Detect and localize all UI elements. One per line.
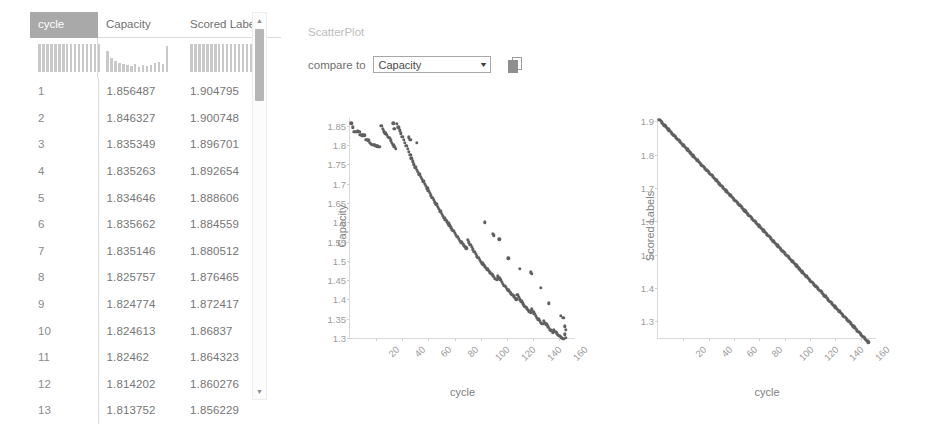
data-point	[378, 145, 381, 148]
x-tick-label: 160	[872, 344, 891, 363]
x-tick-label: 80	[769, 344, 784, 359]
data-point	[394, 147, 397, 150]
data-point	[497, 237, 500, 240]
data-point	[530, 272, 533, 275]
data-point	[518, 267, 521, 270]
panel-title: ScatterPlot	[308, 26, 364, 38]
histogram-cell-cycle	[30, 38, 98, 79]
y-tick-mark	[347, 164, 350, 165]
x-axis-line	[349, 338, 575, 339]
y-tick-mark	[347, 184, 350, 185]
table-row[interactable]: 101.8246131.86837	[30, 317, 281, 344]
y-tick-label: 1.3	[333, 333, 346, 344]
table-row[interactable]: 41.8352631.892654	[30, 158, 281, 185]
cell-cycle: 7	[30, 238, 98, 265]
data-point	[363, 134, 366, 137]
y-tick-label: 1.6	[333, 217, 346, 228]
y-tick-mark	[347, 203, 350, 204]
cell-capacity: 1.813752	[98, 397, 182, 424]
x-tick-label: 60	[744, 344, 759, 359]
x-tick-mark	[835, 338, 836, 341]
data-point	[408, 138, 411, 141]
cell-capacity: 1.835146	[98, 238, 182, 265]
x-tick-mark	[559, 338, 560, 341]
scrollbar-thumb[interactable]	[255, 29, 264, 101]
x-tick-mark	[507, 338, 508, 341]
cell-capacity: 1.825757	[98, 264, 182, 291]
plot-area	[350, 118, 575, 338]
data-point	[507, 257, 510, 260]
y-tick-mark	[655, 221, 658, 222]
histogram-cell-capacity	[98, 38, 182, 79]
cell-cycle: 8	[30, 264, 98, 291]
x-tick-label: 160	[571, 344, 590, 363]
column-header-capacity[interactable]: Capacity	[98, 12, 182, 38]
cell-capacity: 1.856487	[98, 78, 182, 105]
table-row[interactable]: 31.8353491.896701	[30, 131, 281, 158]
data-point	[867, 341, 870, 344]
column-header-cycle[interactable]: cycle	[30, 12, 98, 38]
y-tick-mark	[655, 255, 658, 256]
cell-cycle: 6	[30, 211, 98, 238]
y-tick-label: 1.75	[328, 159, 347, 170]
x-tick-label: 40	[719, 344, 734, 359]
compare-to-label: compare to	[308, 59, 366, 71]
table-row[interactable]: 121.8142021.860276	[30, 371, 281, 398]
data-point	[562, 316, 565, 319]
x-tick-label: 120	[519, 344, 538, 363]
chart-scored-labels-vs-cycle: Scored Labels cycle 1.31.41.51.61.71.81.…	[658, 118, 876, 338]
compare-to-dropdown[interactable]: Capacity ▼	[373, 56, 491, 73]
x-axis-line	[657, 338, 876, 339]
cell-cycle: 3	[30, 131, 98, 158]
data-table-pane: cycle Capacity Scored Labels	[30, 12, 245, 400]
x-tick-label: 80	[465, 344, 480, 359]
y-tick-mark	[347, 261, 350, 262]
table-row[interactable]: 111.824621.864323	[30, 344, 281, 371]
y-tick-mark	[347, 319, 350, 320]
x-tick-mark	[785, 338, 786, 341]
cell-capacity: 1.835662	[98, 211, 182, 238]
histogram-capacity	[106, 42, 168, 72]
data-point	[563, 332, 566, 335]
chevron-down-icon: ▼	[479, 61, 488, 68]
table-row[interactable]: 61.8356621.884559	[30, 211, 281, 238]
histogram-cycle	[38, 42, 100, 72]
table-row[interactable]: 81.8257571.876465	[30, 264, 281, 291]
scroll-up-icon[interactable]: ▲	[253, 14, 266, 27]
x-tick-mark	[376, 338, 377, 341]
y-tick-label: 1.65	[328, 197, 347, 208]
x-tick-label: 100	[796, 344, 815, 363]
table-row[interactable]: 21.8463271.900748	[30, 105, 281, 132]
table-header-row: cycle Capacity Scored Labels	[30, 12, 281, 38]
cell-capacity: 1.846327	[98, 105, 182, 132]
copy-icon[interactable]	[507, 57, 523, 73]
cell-cycle: 10	[30, 317, 98, 344]
y-tick-label: 1.9	[641, 116, 654, 127]
x-tick-mark	[861, 338, 862, 341]
table-row[interactable]: 71.8351461.880512	[30, 238, 281, 265]
y-tick-label: 1.45	[328, 275, 347, 286]
y-tick-label: 1.8	[641, 149, 654, 160]
table-scrollbar[interactable]: ▲ ▼	[252, 12, 267, 400]
y-tick-mark	[347, 299, 350, 300]
table-header: cycle Capacity Scored Labels	[30, 12, 281, 38]
y-tick-label: 1.6	[641, 216, 654, 227]
y-tick-mark	[655, 155, 658, 156]
x-axis-label: cycle	[658, 386, 876, 398]
data-point	[391, 122, 394, 125]
y-tick-label: 1.8	[333, 140, 346, 151]
scroll-down-icon[interactable]: ▼	[253, 385, 266, 398]
plot-area	[658, 118, 876, 338]
table-row[interactable]: 51.8346461.888606	[30, 184, 281, 211]
data-point	[539, 286, 542, 289]
data-point	[393, 127, 396, 130]
table-row[interactable]: 11.8564871.904795	[30, 78, 281, 105]
data-point	[492, 234, 495, 237]
x-tick-mark	[734, 338, 735, 341]
table-row[interactable]: 131.8137521.856229	[30, 397, 281, 424]
x-tick-mark	[533, 338, 534, 341]
data-point	[415, 141, 418, 144]
table-row[interactable]: 91.8247741.872417	[30, 291, 281, 318]
data-point	[564, 328, 567, 331]
